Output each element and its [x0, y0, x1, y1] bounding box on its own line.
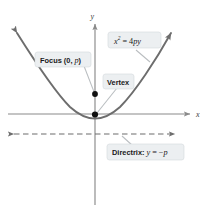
parabola-figure: y x x2 = 4py	[0, 0, 212, 205]
focus-leader-line	[84, 66, 94, 93]
directrix-label-equals: = −	[150, 148, 164, 157]
focus-label-prefix: Focus (0,	[40, 56, 75, 65]
focus-label-text: Focus (0, p)	[40, 56, 82, 65]
equation-label: x2 = 4py	[108, 32, 161, 48]
leader-lines-group	[84, 50, 150, 146]
axes-group: y x	[8, 12, 200, 205]
directrix-label-text: Directrix: y = −p	[112, 148, 168, 157]
vertex-leader-line	[97, 88, 117, 113]
y-axis-label: y	[90, 12, 95, 21]
equation-relation: = 4	[120, 37, 133, 46]
focus-label: Focus (0, p)	[35, 52, 91, 67]
vertex-label-text: Vertex	[107, 78, 130, 87]
equation-label-text: x2 = 4py	[113, 35, 141, 45]
equation-vars: py	[132, 37, 141, 46]
equation-leader-line	[136, 50, 150, 62]
directrix-label-prefix: Directrix:	[112, 148, 147, 157]
directrix-label-var-p: p	[163, 148, 168, 157]
vertex-point	[92, 111, 98, 117]
directrix-label: Directrix: y = −p	[107, 144, 184, 160]
focus-point	[92, 91, 98, 97]
x-axis-label: x	[195, 110, 200, 119]
parabola-diagram-canvas: y x x2 = 4py	[0, 0, 212, 205]
vertex-label: Vertex	[103, 74, 134, 89]
